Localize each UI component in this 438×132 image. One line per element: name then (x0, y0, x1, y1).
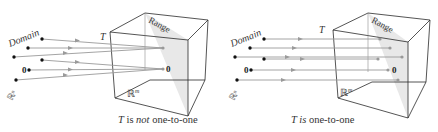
rm-label: ℝm (127, 88, 140, 99)
domain-zero-label: 0 (22, 65, 27, 75)
arrow-heads (63, 39, 80, 78)
range-zero-label: 0 (392, 65, 397, 75)
rm-label: ℝm (340, 87, 353, 98)
domain-label: Domain (228, 27, 263, 50)
rn-label: ℝⁿ (227, 88, 241, 102)
diagram-canvas: Domain Range T 0 0 ℝⁿ ℝm (0, 0, 438, 132)
caption-not-one-to-one: T is not one-to-one (118, 114, 198, 125)
caption-one-to-one: T is one-to-one (291, 114, 354, 125)
panel-one-to-one: Domain Range T 0 0 ℝⁿ ℝm (227, 13, 430, 118)
arrow-heads (281, 37, 305, 82)
domain-label: Domain (6, 27, 41, 50)
map-T-label: T (100, 31, 107, 42)
range-zero-label: 0 (166, 64, 171, 74)
caption-rest: one-to-one (306, 114, 354, 125)
mapping-arrows (14, 39, 163, 80)
caption-is: is (297, 114, 307, 125)
panel-not-one-to-one: Domain Range T 0 0 ℝⁿ ℝm (5, 13, 208, 116)
map-T-label: T (319, 24, 326, 35)
caption-not: not (136, 114, 149, 125)
caption-is: is (124, 114, 136, 125)
caption-rest: one-to-one (150, 114, 198, 125)
rn-label: ℝⁿ (5, 88, 19, 102)
domain-zero-label: 0 (244, 65, 249, 75)
